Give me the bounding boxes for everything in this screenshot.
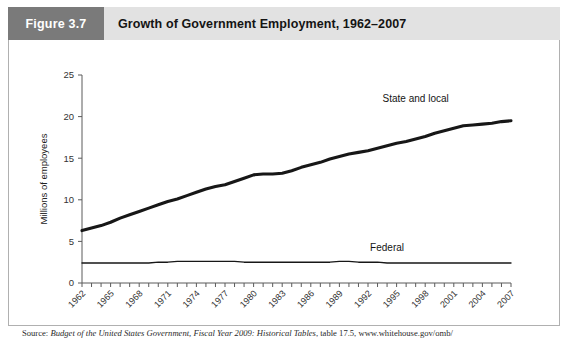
x-tick-label: 1986 [295,288,316,309]
y-tick-label: 10 [63,194,74,205]
x-tick-label: 1980 [238,288,259,309]
x-tick-label: 1992 [352,288,373,309]
y-tick-label: 25 [63,69,74,80]
source-note: Source: Budget of the United States Gove… [22,328,562,338]
data-series-group [82,121,511,263]
series-line-state-and-local [82,121,511,231]
x-tick-label: 1971 [152,288,173,309]
y-tick-label: 0 [69,277,74,288]
y-tick-label: 20 [63,111,74,122]
figure-container: Figure 3.7 Growth of Government Employme… [0,0,568,341]
x-tick-label: 1968 [123,288,144,309]
figure-title-label: Growth of Government Employment, 1962–20… [118,17,406,31]
y-axis: 0510152025 [63,69,82,288]
x-tick-label: 1974 [181,288,202,309]
series-line-federal [82,261,511,263]
x-tick-label: 1962 [66,288,87,309]
series-label-federal: Federal [370,242,404,253]
y-tick-label: 15 [63,153,74,164]
line-chart: 0510152025 19621965196819711974197719801… [0,40,568,320]
x-tick-label: 1989 [324,288,345,309]
x-tick-label: 1977 [209,288,230,309]
x-axis: 1962196519681971197419771980198319861989… [66,283,516,310]
chart-plot-area: 0510152025 19621965196819711974197719801… [0,40,568,320]
x-tick-label: 1965 [95,288,116,309]
source-suffix: , table 17.5, www.whitehouse.gov/omb/ [316,328,453,338]
source-prefix: Source: [22,328,48,338]
x-tick-label: 2007 [495,288,516,309]
figure-number-block: Figure 3.7 [8,7,104,40]
x-tick-label: 1995 [381,288,402,309]
x-tick-label: 1983 [266,288,287,309]
source-citation: Budget of the United States Government, … [50,328,316,338]
x-tick-label: 1998 [409,288,430,309]
figure-number-label: Figure 3.7 [25,17,86,31]
figure-title-block: Growth of Government Employment, 1962–20… [104,7,560,40]
figure-header-bar: Figure 3.7 Growth of Government Employme… [8,7,560,40]
y-tick-label: 5 [69,236,74,247]
series-label-group: State and localFederal [370,93,449,253]
y-axis-title: Millions of employees [38,133,49,224]
x-tick-label: 2004 [467,288,488,309]
x-tick-label: 2001 [438,288,459,309]
series-label-state-and-local: State and local [383,93,449,104]
